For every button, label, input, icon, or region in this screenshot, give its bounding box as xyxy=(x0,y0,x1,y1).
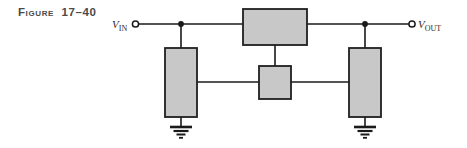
left-shunt-resistor xyxy=(165,48,197,117)
output-terminal-label: VOUT xyxy=(418,18,441,33)
output-terminal-circle-icon[interactable] xyxy=(409,21,415,27)
input-label-subscript: IN xyxy=(119,24,128,33)
output-label-subscript: OUT xyxy=(425,24,442,33)
center-bridge-resistor xyxy=(259,66,291,99)
circuit-schematic: VIN VOUT xyxy=(0,0,467,148)
right-ground-symbol xyxy=(354,127,376,138)
output-node-junction xyxy=(362,21,368,27)
top-series-resistor xyxy=(243,9,307,45)
input-terminal-circle-icon[interactable] xyxy=(132,21,138,27)
figure-screenshot: Figure 17–40 xyxy=(0,0,467,148)
right-shunt-resistor xyxy=(349,48,381,117)
left-ground-symbol xyxy=(170,127,192,138)
input-terminal-label: VIN xyxy=(112,18,127,33)
input-node-junction xyxy=(178,21,184,27)
